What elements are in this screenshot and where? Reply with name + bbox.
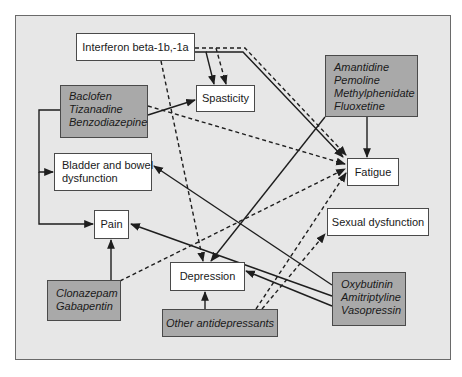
node-label: Spasticity — [202, 92, 249, 105]
node-clonazepam-group: Clonazepam Gabapentin — [47, 280, 121, 321]
node-amantidine-group: Amantidine Pemoline Methylphenidate Fluo… — [325, 55, 418, 117]
drug-clonazepam: Clonazepam — [56, 287, 120, 300]
drug-vasopressin: Vasopressin — [341, 304, 405, 317]
node-label: Pain — [100, 218, 122, 231]
node-label-line2: dysfunction — [62, 172, 118, 185]
node-label-line1: Bladder and bowel — [62, 159, 153, 172]
drug-tizanadine: Tizanadine — [69, 103, 147, 116]
node-label: Fatigue — [355, 166, 392, 179]
node-fatigue: Fatigue — [347, 158, 399, 186]
node-interferon: Interferon beta-1b,-1a — [76, 33, 195, 61]
node-sexual-dysfunction: Sexual dysfunction — [327, 208, 429, 236]
drug-amitriptyline: Amitriptyline — [341, 291, 405, 304]
node-spasticity: Spasticity — [196, 85, 255, 112]
drug-methylphenidate: Methylphenidate — [334, 87, 417, 100]
node-label: Other antidepressants — [166, 317, 274, 330]
node-oxybutinin-group: Oxybutinin Amitriptyline Vasopressin — [332, 272, 406, 326]
edge-amantidine-depression — [211, 117, 325, 261]
drug-baclofen: Baclofen — [69, 90, 147, 103]
drug-fluoxetine: Fluoxetine — [334, 100, 417, 113]
edge-interferon-spasticity-dashed — [195, 48, 226, 84]
drug-pemoline: Pemoline — [334, 74, 417, 87]
edge-baclofen-fatigue-dashed — [148, 106, 345, 164]
edge-interferon-spasticity-solid — [195, 52, 214, 84]
node-pain: Pain — [94, 210, 129, 239]
node-depression: Depression — [170, 262, 245, 291]
drug-oxybutinin: Oxybutinin — [341, 278, 405, 291]
node-label: Sexual dysfunction — [332, 216, 424, 229]
drug-benzodiazepine: Benzodiazepine — [69, 116, 147, 129]
drug-amantidine: Amantidine — [334, 61, 417, 74]
node-label: Interferon beta-1b,-1a — [82, 41, 188, 54]
node-bladder-bowel: Bladder and bowel dysfunction — [54, 153, 152, 191]
node-other-antidepressants: Other antidepressants — [162, 309, 278, 337]
node-baclofen-group: Baclofen Tizanadine Benzodiazepine — [60, 85, 148, 138]
node-label: Depression — [180, 270, 236, 283]
drug-gabapentin: Gabapentin — [56, 300, 120, 313]
